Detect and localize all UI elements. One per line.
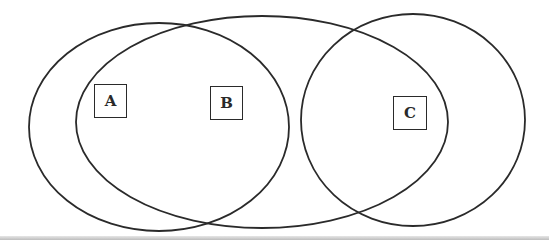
bottom-edge-divider	[0, 236, 549, 240]
set-a-label: A	[94, 84, 127, 118]
set-c-label: C	[393, 96, 427, 130]
set-b-label: B	[210, 86, 243, 120]
venn-diagram	[0, 0, 549, 240]
set-a-ellipse	[29, 23, 289, 231]
